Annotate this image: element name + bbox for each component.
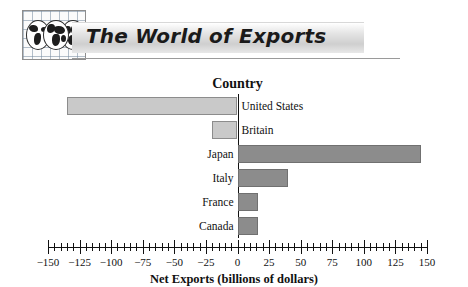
axis-tick-minor	[263, 243, 264, 251]
axis-tick-minor	[307, 243, 308, 251]
bar-label: Britain	[242, 121, 274, 139]
page-title: The World of Exports	[86, 24, 326, 48]
axis-tick-label: −50	[166, 256, 183, 268]
axis-tick-minor	[326, 243, 327, 251]
axis-tick-major	[301, 240, 302, 254]
axis-tick-major	[269, 240, 270, 254]
bar-row: United States	[0, 94, 468, 118]
axis-tick-minor	[402, 243, 403, 251]
axis-tick-major	[80, 240, 81, 254]
bar	[212, 121, 237, 139]
axis-tick-minor	[408, 243, 409, 251]
axis-tick-major	[427, 240, 428, 254]
axis-tick-minor	[99, 243, 100, 251]
axis-tick-major	[238, 240, 239, 254]
axis-tick-label: −100	[100, 256, 123, 268]
axis-tick-minor	[339, 243, 340, 251]
bar-label: United States	[242, 97, 304, 115]
bar-label: Canada	[199, 217, 233, 235]
axis-tick-label: 75	[327, 256, 338, 268]
axis-tick-minor	[168, 243, 169, 251]
axis-tick-minor	[219, 243, 220, 251]
axis-tick-minor	[73, 243, 74, 251]
axis-tick-minor	[117, 243, 118, 251]
axis-tick-minor	[67, 243, 68, 251]
axis-tick-label: 150	[419, 256, 436, 268]
axis-tick-minor	[288, 243, 289, 251]
title-banner: The World of Exports	[72, 22, 364, 53]
bar-label: France	[202, 193, 233, 211]
bar-label: Italy	[212, 169, 233, 187]
axis-tick-minor	[130, 243, 131, 251]
axis-tick-minor	[421, 243, 422, 251]
axis-tick-label: 0	[235, 256, 241, 268]
axis-tick-minor	[389, 243, 390, 251]
axis-tick-minor	[282, 243, 283, 251]
axis-tick-minor	[86, 243, 87, 251]
axis-tick-major	[206, 240, 207, 254]
axis-tick-minor	[105, 243, 106, 251]
bar	[238, 193, 258, 211]
axis-tick-label: 50	[295, 256, 306, 268]
axis-tick-minor	[376, 243, 377, 251]
axis-tick-label: −150	[37, 256, 60, 268]
axis-tick-minor	[351, 243, 352, 251]
axis-tick-minor	[275, 243, 276, 251]
axis-tick-major	[111, 240, 112, 254]
axis-tick-minor	[345, 243, 346, 251]
axis-tick-major	[364, 240, 365, 254]
bar-row: Britain	[0, 118, 468, 142]
axis-tick-label: 100	[356, 256, 373, 268]
axis-tick-minor	[414, 243, 415, 251]
axis-tick-minor	[162, 243, 163, 251]
axis-tick-minor	[92, 243, 93, 251]
axis-tick-minor	[256, 243, 257, 251]
axis-tick-label: −25	[197, 256, 214, 268]
bar	[67, 97, 238, 115]
axis-tick-minor	[212, 243, 213, 251]
axis-tick-minor	[187, 243, 188, 251]
header-divider	[72, 58, 400, 59]
axis-tick-minor	[313, 243, 314, 251]
axis-tick-major	[48, 240, 49, 254]
bar-row: Japan	[0, 142, 468, 166]
bar	[238, 145, 421, 163]
axis-tick-minor	[244, 243, 245, 251]
axis-tick-minor	[225, 243, 226, 251]
bar-row: France	[0, 190, 468, 214]
axis-tick-minor	[124, 243, 125, 251]
axis-tick-major	[174, 240, 175, 254]
axis-tick-minor	[193, 243, 194, 251]
plot-area: United StatesBritainJapanItalyFranceCana…	[0, 94, 468, 238]
bar-row: Canada	[0, 214, 468, 238]
axis-tick-minor	[383, 243, 384, 251]
axis-tick-minor	[155, 243, 156, 251]
axis-tick-major	[332, 240, 333, 254]
page-header: The World of Exports	[0, 0, 468, 72]
bar	[238, 217, 258, 235]
axis-tick-minor	[136, 243, 137, 251]
category-axis-heading: Country	[212, 76, 263, 92]
axis-tick-minor	[181, 243, 182, 251]
axis-tick-label: −125	[68, 256, 91, 268]
bar-row: Italy	[0, 166, 468, 190]
axis-tick-major	[395, 240, 396, 254]
axis-tick-label: 125	[387, 256, 404, 268]
axis-tick-minor	[358, 243, 359, 251]
bar-label: Japan	[207, 145, 233, 163]
bar	[238, 169, 289, 187]
axis-tick-minor	[250, 243, 251, 251]
axis-tick-minor	[149, 243, 150, 251]
axis-tick-minor	[61, 243, 62, 251]
value-axis: Net Exports (billions of dollars) −150−1…	[0, 238, 468, 282]
axis-tick-label: 25	[264, 256, 275, 268]
axis-tick-minor	[54, 243, 55, 251]
axis-tick-minor	[200, 243, 201, 251]
axis-tick-minor	[320, 243, 321, 251]
net-exports-bar-chart: Country United StatesBritainJapanItalyFr…	[0, 72, 468, 282]
axis-tick-minor	[294, 243, 295, 251]
axis-tick-label: −75	[134, 256, 151, 268]
axis-tick-minor	[370, 243, 371, 251]
globe-icon-center	[43, 20, 69, 50]
axis-title: Net Exports (billions of dollars)	[0, 272, 468, 287]
